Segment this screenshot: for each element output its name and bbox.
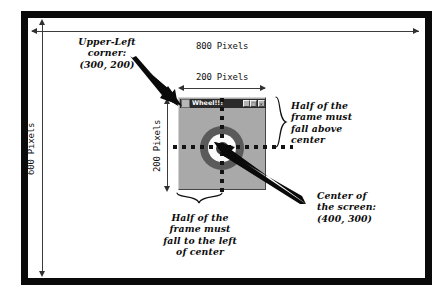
above-center-brace (274, 97, 288, 147)
height-measure-arrow-bottom (39, 271, 45, 277)
width-measure-line (32, 31, 419, 32)
frame-height-measure-line (167, 103, 168, 188)
upper-left-corner-annotation: Upper-Left corner: (300, 200) (70, 36, 144, 70)
screen-center-annotation: Center of the screen: (400, 300) (317, 190, 409, 224)
height-measure-line (42, 25, 43, 273)
close-button[interactable]: × (258, 100, 265, 107)
height-measure-arrow-top (39, 19, 45, 25)
frame-width-measure-line (180, 88, 265, 89)
window-control-buttons: _ □ × (243, 100, 265, 107)
minimize-button[interactable]: _ (243, 100, 250, 107)
width-measure-arrow-right (413, 28, 419, 34)
width-measure-arrow-left (31, 28, 37, 34)
screen-center-pointer-arrow (214, 142, 306, 204)
above-center-annotation: Half of the frame must fall above center (291, 100, 375, 146)
frame-height-label: 200 Pixels (152, 120, 162, 172)
screen-height-label: 600 Pixels (26, 123, 36, 175)
left-of-center-annotation: Half of the frame must fall to the left … (143, 212, 257, 258)
left-of-center-brace (177, 192, 222, 206)
screen-width-label: 800 Pixels (196, 41, 248, 51)
window-title-text: Wheel!!! (192, 99, 243, 108)
maximize-button[interactable]: □ (250, 100, 257, 107)
frame-width-label: 200 Pixels (196, 72, 248, 82)
diagram-canvas: 800 Pixels 600 Pixels 200 Pixels 200 Pix… (0, 0, 447, 297)
frame-width-arrow-right (260, 85, 266, 91)
frame-height-arrow-bottom (164, 186, 170, 192)
